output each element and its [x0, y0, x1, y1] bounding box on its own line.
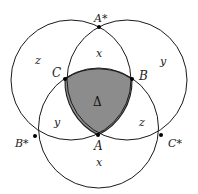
region-center-delta: Δ [93, 95, 102, 109]
point-c-star [159, 133, 163, 137]
point-a-star [97, 25, 101, 29]
label-c: C [52, 66, 61, 80]
region-bottom-right-z: z [138, 116, 145, 129]
region-bottom-left-y: y [53, 116, 61, 129]
label-a-star: A* [93, 12, 108, 25]
label-a: A [93, 139, 103, 153]
spherical-triangle-diagram: A* C B A B* C* x z y Δ y z x [0, 0, 198, 194]
label-b: B [138, 69, 148, 83]
region-right-y: y [159, 55, 167, 68]
point-a [96, 133, 100, 137]
region-top-x: x [96, 47, 103, 60]
region-bottom-x: x [96, 156, 103, 169]
label-c-star: C* [168, 137, 182, 150]
point-b-star [33, 134, 37, 138]
point-c [63, 77, 67, 81]
point-b [130, 77, 134, 81]
region-left-z: z [34, 54, 41, 67]
label-b-star: B* [14, 137, 29, 150]
